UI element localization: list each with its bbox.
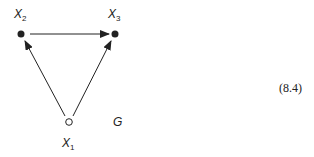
equation-number: (8.4) — [279, 81, 302, 95]
edge-x1-x2 — [25, 41, 65, 116]
label-x3: X3 — [107, 7, 121, 23]
graph-name-label: G — [113, 115, 122, 129]
node-x2 — [18, 31, 25, 38]
label-x1: X1 — [61, 136, 75, 152]
node-x1 — [66, 119, 73, 126]
edge-x1-x3 — [73, 41, 111, 116]
graph-diagram: X2 X3 X1 G (8.4) — [0, 0, 314, 157]
node-x3 — [112, 31, 119, 38]
label-x2: X2 — [13, 7, 27, 23]
